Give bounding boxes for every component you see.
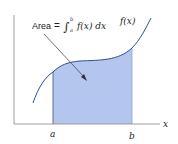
area-label: Area [32, 21, 51, 31]
shaded-area-region [53, 48, 132, 124]
integral-lower-limit: a [70, 27, 73, 33]
curve-label: f(x) [119, 16, 136, 26]
integral-upper-limit: b [70, 16, 73, 22]
equals-sign: = [54, 20, 60, 31]
integral-sign: ∫ [63, 20, 70, 34]
integral-area-diagram: Area = ∫ b a f(x) dx f(x) x a b [0, 0, 178, 144]
integrand: f(x) dx [76, 21, 106, 31]
x-axis-label: x [163, 119, 168, 129]
upper-bound-label: b [129, 131, 135, 141]
lower-bound-label: a [50, 129, 55, 139]
